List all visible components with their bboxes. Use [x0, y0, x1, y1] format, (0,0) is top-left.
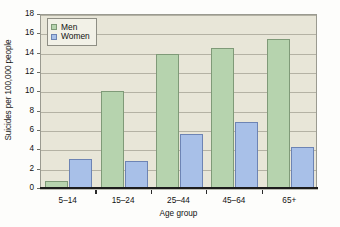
x-axis-tick-label: 65+ [259, 196, 319, 205]
y-axis-tick-label: 8 [10, 107, 34, 115]
y-axis-tick-label: 12 [10, 68, 34, 76]
x-axis-baseline-shadow [40, 189, 318, 190]
x-axis-tick-label: 45–64 [204, 196, 264, 205]
y-axis-tick-label: 0 [10, 184, 34, 192]
legend-item-men: Men [51, 23, 90, 31]
bar-men-45-64 [211, 48, 234, 188]
x-axis-tick-mark [262, 190, 263, 194]
bar-women-65+ [291, 147, 314, 188]
bar-women-15-24 [125, 161, 148, 188]
legend-swatch-women [51, 34, 57, 40]
legend-label-women: Women [61, 32, 90, 40]
y-axis-tick-label: 2 [10, 165, 34, 173]
bar-women-5-14 [69, 159, 92, 188]
y-axis-tick-label: 16 [10, 29, 34, 37]
legend-label-men: Men [61, 23, 77, 31]
x-axis-tick-mark [151, 190, 152, 194]
bar-men-15-24 [101, 91, 124, 188]
bar-men-65+ [267, 39, 290, 188]
gridline [41, 15, 316, 16]
legend-item-women: Women [51, 32, 90, 40]
y-axis-tick-label: 18 [10, 10, 34, 18]
legend-swatch-men [51, 24, 57, 30]
x-axis-tick-label: 25–44 [149, 196, 209, 205]
x-axis-tick-label: 15–24 [93, 196, 153, 205]
x-axis-label: Age group [40, 209, 317, 218]
bar-chart-figure: Suicides per 100,000 people 024681012141… [0, 0, 340, 227]
y-axis-tick-label: 10 [10, 87, 34, 95]
y-axis-tick-label: 6 [10, 126, 34, 134]
bar-women-25-44 [180, 134, 203, 188]
x-axis-tick-mark [206, 190, 207, 194]
x-axis-tick-mark [95, 190, 96, 194]
x-axis-tick-label: 5–14 [38, 196, 98, 205]
chart-legend: MenWomen [47, 18, 97, 46]
y-axis-tick-label: 14 [10, 49, 34, 57]
bar-men-25-44 [156, 54, 179, 188]
bar-women-45-64 [235, 122, 258, 188]
y-axis-tick-label: 4 [10, 145, 34, 153]
